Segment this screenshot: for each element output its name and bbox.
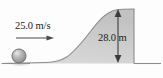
- height-label: 28.0 m: [98, 33, 127, 44]
- velocity-arrow-head: [47, 35, 55, 40]
- ball: [12, 49, 26, 63]
- velocity-label: 25.0 m/s: [15, 21, 50, 32]
- diagram-canvas: [0, 0, 163, 78]
- physics-diagram: 25.0 m/s 28.0 m: [0, 0, 163, 78]
